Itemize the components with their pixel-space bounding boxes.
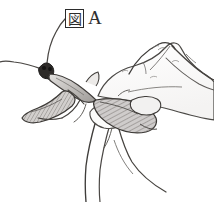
figure-label-box: 図 (65, 9, 84, 28)
eye-right (48, 67, 52, 71)
mantis-on-hand-drawing (0, 0, 214, 202)
figure-illustration: 図 A (0, 0, 214, 202)
eye-left (42, 66, 46, 70)
abdomen-upper-plate (130, 96, 160, 115)
figure-label-letter: A (88, 8, 102, 28)
